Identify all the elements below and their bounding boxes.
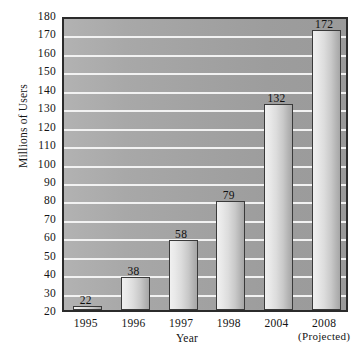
bar-chart: Millions of Users 1801701601501401301201… [0, 0, 364, 360]
y-axis-tick: 100 [22, 159, 56, 170]
y-axis-tick: 110 [22, 140, 56, 151]
bar-value-label: 58 [155, 228, 208, 240]
bar [216, 201, 245, 310]
bar [169, 240, 198, 310]
x-axis-tick-year: 1996 [121, 317, 145, 329]
y-axis-tick: 70 [22, 214, 56, 225]
y-axis-tick: 30 [22, 288, 56, 299]
x-axis-title: Year [62, 332, 312, 344]
bar-value-label: 132 [250, 92, 303, 104]
bar-value-label: 38 [107, 265, 160, 277]
x-axis-tick-year: 1997 [169, 317, 193, 329]
y-axis-tick: 140 [22, 85, 56, 96]
bar [264, 104, 293, 311]
bar-value-label: 79 [202, 189, 255, 201]
plot-area [62, 17, 348, 312]
y-axis-tick: 120 [22, 122, 56, 133]
y-axis-tick: 170 [22, 29, 56, 40]
x-axis-tick-year: 2004 [264, 317, 288, 329]
x-axis-tick-year: 2008 [312, 317, 336, 329]
y-axis-tick: 80 [22, 195, 56, 206]
x-axis-tick-year: 1998 [217, 317, 241, 329]
y-axis-tick: 60 [22, 232, 56, 243]
y-axis-tick: 160 [22, 48, 56, 59]
bar-value-label: 172 [298, 18, 351, 30]
y-axis-tick: 130 [22, 103, 56, 114]
y-axis-tick: 150 [22, 66, 56, 77]
y-axis-tick: 90 [22, 177, 56, 188]
x-axis-tick-year: 1995 [74, 317, 98, 329]
bar [73, 306, 102, 310]
bar-value-label: 22 [59, 294, 112, 306]
y-axis-tick-labels: 1801701601501401301201101009080706050403… [22, 17, 56, 312]
y-axis-tick: 20 [22, 306, 56, 317]
bar [121, 277, 150, 310]
y-axis-tick: 40 [22, 269, 56, 280]
y-axis-tick: 180 [22, 11, 56, 22]
y-axis-tick: 50 [22, 251, 56, 262]
bar [312, 30, 341, 310]
